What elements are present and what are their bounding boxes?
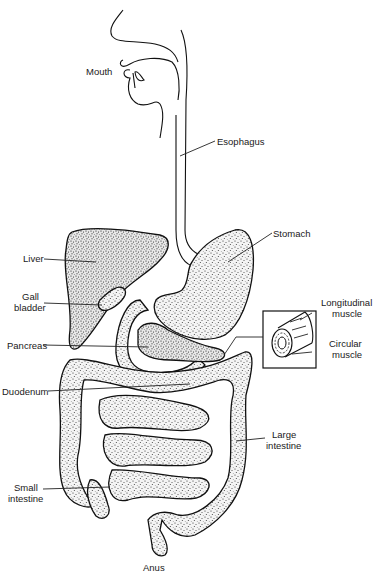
- digestive-system-diagram: Mouth Esophagus Stomach Liver Gall bladd…: [0, 0, 379, 583]
- label-esophagus: Esophagus: [217, 136, 265, 147]
- label-anus: Anus: [143, 562, 165, 573]
- label-large-intestine-line2: intestine: [266, 440, 301, 451]
- label-large-intestine-line1: Large: [272, 429, 296, 440]
- label-longitudinal-muscle-line2: muscle: [332, 308, 362, 319]
- label-pancreas: Pancreas: [7, 340, 47, 351]
- label-gall-bladder-line1: Gall: [22, 291, 39, 302]
- stomach-illustration: [154, 230, 253, 340]
- label-circular-muscle-line2: muscle: [332, 349, 362, 360]
- label-small-intestine-line1: Small: [14, 482, 38, 493]
- label-stomach: Stomach: [273, 228, 311, 239]
- label-longitudinal-muscle-line1: Longitudinal: [321, 297, 372, 308]
- label-mouth: Mouth: [86, 66, 112, 77]
- esophagus-illustration: [176, 100, 198, 266]
- label-gall-bladder-line2: bladder: [14, 302, 46, 313]
- label-liver: Liver: [23, 253, 44, 264]
- small-intestine-illustration: [88, 395, 213, 518]
- label-small-intestine-line2: intestine: [8, 493, 43, 504]
- label-duodenum: Duodenum: [2, 386, 49, 397]
- label-circular-muscle-line1: Circular: [329, 338, 362, 349]
